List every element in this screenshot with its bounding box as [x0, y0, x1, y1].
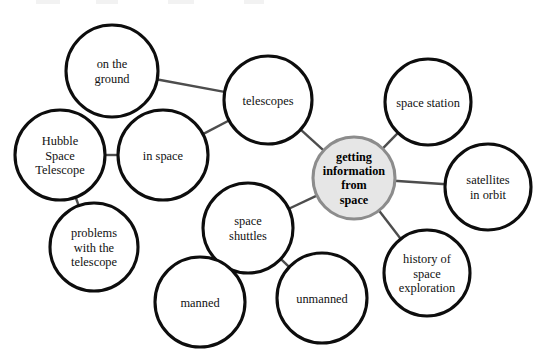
node-label-line: ground — [94, 72, 130, 86]
edge-telescopes-to-on-the-ground — [156, 79, 225, 92]
node-manned[interactable]: manned — [155, 257, 245, 347]
node-label-line: satellites — [466, 173, 510, 187]
node-problems-with-the-telescope[interactable]: problemswith thetelescope — [50, 203, 138, 291]
node-label-line: with the — [74, 241, 115, 255]
node-telescopes[interactable]: telescopes — [224, 56, 312, 144]
node-unmanned[interactable]: unmanned — [277, 253, 367, 343]
node-label-line: exploration — [399, 281, 455, 295]
edge-center-to-satellites-in-orbit — [394, 181, 446, 185]
node-label-satellites-in-orbit: satellitesin orbit — [466, 173, 510, 202]
concept-map-diagram: gettinginformationfromspacetelescopeson … — [0, 0, 545, 364]
node-label-line: Hubble — [42, 134, 79, 148]
node-label-on-the-ground: on theground — [94, 57, 130, 86]
node-label-line: getting — [336, 150, 372, 164]
node-label-line: in space — [143, 149, 184, 163]
node-on-the-ground[interactable]: on theground — [66, 25, 158, 117]
nodes-layer: gettinginformationfromspacetelescopeson … — [15, 25, 531, 347]
edge-center-to-space-station — [382, 132, 399, 149]
node-satellites-in-orbit[interactable]: satellitesin orbit — [445, 144, 531, 230]
node-label-line: shuttles — [229, 229, 267, 243]
node-label-line: space — [413, 267, 441, 281]
node-label-line: space station — [396, 96, 460, 110]
node-label-line: telescope — [71, 255, 118, 269]
node-label-line: problems — [71, 226, 117, 240]
node-label-line: telescopes — [243, 94, 294, 108]
node-label-line: space — [234, 214, 262, 228]
node-label-problems-with-the-telescope: problemswith thetelescope — [71, 226, 118, 269]
node-label-line: unmanned — [296, 292, 348, 306]
edge-telescopes-to-in-space — [202, 120, 230, 135]
node-label-line: Space — [45, 149, 75, 163]
node-center[interactable]: gettinginformationfromspace — [313, 137, 395, 219]
node-label-in-space: in space — [143, 149, 184, 163]
node-hubble-space-telescope[interactable]: HubbleSpaceTelescope — [15, 110, 105, 200]
node-label-line: on the — [97, 57, 128, 71]
edge-center-to-space-shuttles — [288, 195, 318, 209]
node-label-line: manned — [180, 296, 220, 310]
concept-map-canvas: gettinginformationfromspacetelescopeson … — [0, 0, 545, 364]
node-label-line: information — [323, 164, 386, 178]
edge-center-to-history-of-space-exploration — [378, 210, 401, 240]
node-in-space[interactable]: in space — [118, 110, 208, 200]
node-label-line: from — [341, 178, 367, 192]
node-label-space-station: space station — [396, 96, 460, 110]
node-space-station[interactable]: space station — [385, 59, 471, 145]
edge-center-to-telescopes — [300, 129, 325, 151]
node-label-line: Telescope — [35, 163, 85, 177]
node-label-unmanned: unmanned — [296, 292, 348, 306]
node-label-space-shuttles: spaceshuttles — [229, 214, 267, 243]
node-label-line: in orbit — [470, 188, 507, 202]
node-label-manned: manned — [180, 296, 220, 310]
node-label-line: space — [340, 193, 369, 207]
node-label-line: history of — [403, 252, 452, 266]
node-history-of-space-exploration[interactable]: history ofspaceexploration — [384, 230, 470, 316]
node-label-telescopes: telescopes — [243, 94, 294, 108]
